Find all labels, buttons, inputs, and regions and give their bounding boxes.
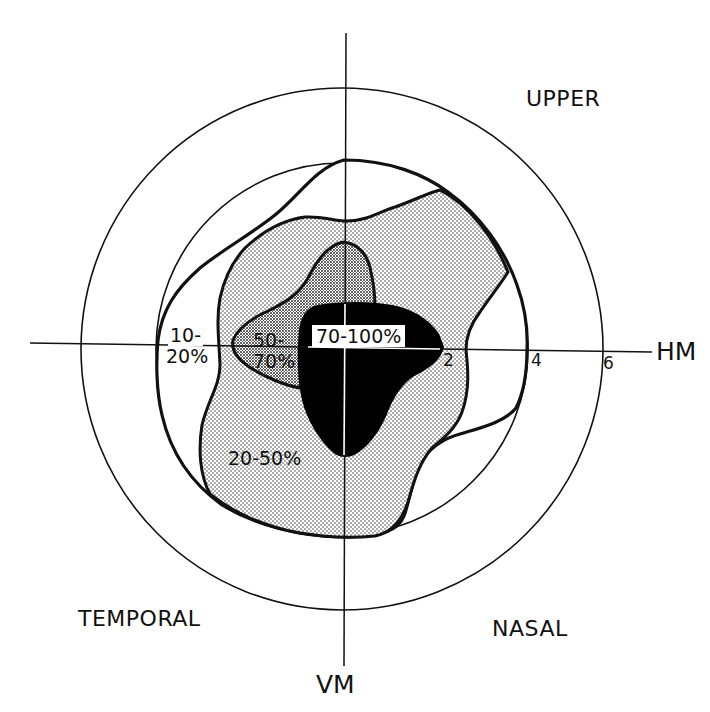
quadrant-label-temporal: TEMPORAL <box>78 608 201 630</box>
zone-label-10-20-line2: 20% <box>166 346 208 367</box>
vertical-meridian-label: VM <box>316 672 355 697</box>
zone-label-50-70-line1: 50- <box>253 330 284 351</box>
zone-label-50-70: 50- 70% <box>253 330 295 372</box>
horizontal-meridian-label: HM <box>656 339 696 364</box>
zone-label-70-100: 70-100% <box>312 325 405 347</box>
zone-label-20-50: 20-50% <box>228 448 301 469</box>
zone-label-50-70-line2: 70% <box>253 351 295 372</box>
eccentricity-tick-4: 4 <box>531 352 542 369</box>
quadrant-label-upper: UPPER <box>526 88 600 110</box>
zone-label-10-20-line1: 10- <box>168 325 203 346</box>
eccentricity-tick-6: 6 <box>603 355 614 372</box>
visual-field-figure: UPPER TEMPORAL NASAL HM VM 2 4 6 10- 20%… <box>0 0 710 712</box>
zone-label-10-20: 10- 20% <box>168 325 208 367</box>
eccentricity-tick-2: 2 <box>443 352 454 369</box>
quadrant-label-nasal: NASAL <box>492 618 568 640</box>
